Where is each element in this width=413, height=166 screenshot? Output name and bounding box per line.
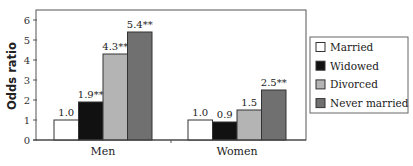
data-label: 4.3** — [102, 41, 128, 52]
legend-swatch — [316, 99, 325, 108]
data-label: 1.0 — [192, 107, 208, 118]
data-label: 1.5 — [241, 97, 257, 108]
data-label: 2.5** — [261, 77, 287, 88]
legend-label: Married — [330, 41, 374, 53]
legend-swatch — [316, 80, 325, 89]
y-tick-label: 1 — [24, 115, 30, 126]
data-label: 1.0 — [58, 107, 74, 118]
legend-label: Widowed — [330, 60, 379, 72]
x-category-label: Women — [216, 145, 257, 158]
y-tick-label: 2 — [24, 95, 30, 106]
x-axis: MenWomen — [33, 140, 306, 158]
data-label: 5.4** — [127, 19, 153, 30]
legend: MarriedWidowedDivorcedNever married — [310, 37, 409, 113]
legend-swatch — [316, 61, 325, 70]
bars: 1.01.9**4.3**5.4**1.00.91.52.5** — [54, 19, 287, 140]
y-tick-label: 3 — [24, 75, 30, 86]
bar-widowed-women — [213, 122, 238, 140]
y-tick-label: 0 — [24, 135, 30, 146]
y-axis-label: Odds ratio — [5, 42, 19, 110]
odds-ratio-chart: 0123456 Odds ratio 1.01.9**4.3**5.4**1.0… — [0, 0, 413, 166]
bar-widowed-men — [79, 102, 104, 140]
legend-label: Never married — [330, 97, 409, 109]
bar-divorced-women — [237, 110, 262, 140]
bar-married-men — [54, 120, 79, 140]
legend-swatch — [316, 43, 325, 52]
legend-label: Divorced — [330, 78, 378, 90]
y-tick-label: 4 — [24, 55, 30, 66]
y-tick-label: 6 — [24, 15, 30, 26]
bar-never-married-women — [262, 90, 287, 140]
data-label: 1.9** — [78, 89, 104, 100]
y-axis: 0123456 — [24, 15, 37, 146]
bar-divorced-men — [103, 54, 128, 140]
data-label: 0.9 — [217, 109, 233, 120]
x-category-label: Men — [91, 145, 116, 158]
bar-never-married-men — [128, 32, 153, 140]
bar-married-women — [188, 120, 213, 140]
y-tick-label: 5 — [24, 35, 30, 46]
